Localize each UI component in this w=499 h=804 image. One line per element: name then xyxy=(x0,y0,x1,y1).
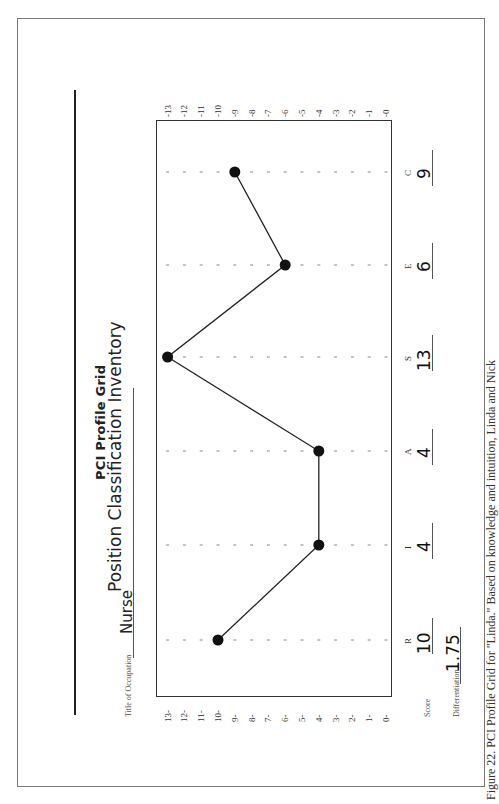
data-point xyxy=(313,446,324,457)
figure-caption: Figure 22. PCI Profile Grid for "Linda."… xyxy=(484,360,499,800)
profile-chart xyxy=(0,0,499,804)
category-score: 9 xyxy=(414,168,434,179)
score-underline xyxy=(432,243,433,279)
category-score: 4 xyxy=(414,541,434,552)
category-letter: E xyxy=(403,264,413,270)
data-point xyxy=(162,352,173,363)
data-point xyxy=(313,540,324,551)
differentiation-underline xyxy=(460,627,461,684)
score-underline xyxy=(432,429,433,465)
category-letter: I xyxy=(403,546,413,549)
score-underline xyxy=(432,523,433,559)
score-underline xyxy=(432,335,433,371)
category-score: 6 xyxy=(414,261,434,272)
data-point xyxy=(280,260,291,271)
category-letter: C xyxy=(403,170,413,176)
category-score: 4 xyxy=(414,447,434,458)
category-score: 13 xyxy=(414,349,434,371)
category-letter: A xyxy=(403,449,413,456)
score-underline xyxy=(432,618,433,654)
category-letter: S xyxy=(403,356,413,361)
data-point xyxy=(213,635,224,646)
category-score: 10 xyxy=(414,632,434,654)
category-letter: R xyxy=(403,638,413,644)
data-point xyxy=(229,167,240,178)
score-underline xyxy=(432,150,433,186)
score-label: Score xyxy=(423,699,432,717)
